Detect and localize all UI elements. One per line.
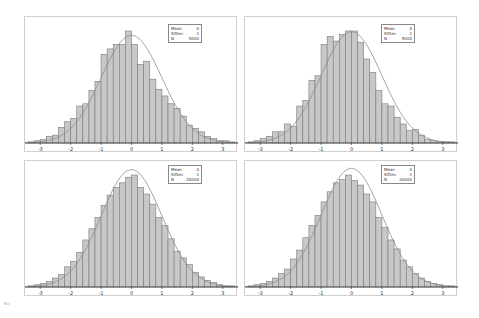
histogram-bar [370, 202, 376, 287]
histogram-bar [168, 239, 174, 287]
legend-row: N20000 [171, 177, 199, 182]
histogram-bar [339, 179, 345, 287]
x-tick-label: 3 [221, 290, 224, 296]
histogram-bar [352, 31, 358, 143]
legend-value: 20000 [399, 177, 412, 182]
histogram-bar [358, 42, 364, 143]
histogram-bar [77, 106, 83, 143]
histogram-bar [327, 192, 333, 287]
histogram-bar [144, 194, 150, 287]
x-tick-label: 3 [441, 146, 444, 152]
histogram-bar [412, 130, 418, 143]
x-tick-label: 0 [350, 146, 353, 152]
histogram-bar [144, 61, 150, 143]
histogram-bar [107, 195, 113, 287]
x-tick-label: -2 [68, 146, 73, 152]
histogram-bar [119, 44, 125, 143]
x-tick-label: 0 [350, 290, 353, 296]
histogram-bar [382, 104, 388, 143]
x-tick-label: 1 [160, 146, 163, 152]
legend-key: N [384, 177, 387, 182]
x-tick-label: 2 [411, 290, 414, 296]
histogram-bar [150, 79, 156, 143]
histogram-plot: -3-2-10123 [25, 161, 238, 307]
x-tick-label: -2 [288, 290, 293, 296]
histogram-bar [345, 31, 351, 143]
histogram-plot: -3-2-10123 [245, 161, 458, 307]
histogram-bar [358, 185, 364, 287]
histogram-bar [95, 81, 101, 143]
histogram-bar [406, 131, 412, 143]
histogram-bar [309, 225, 315, 287]
histogram-bar [364, 59, 370, 143]
histogram-bar [125, 31, 131, 143]
histogram-bar [71, 118, 77, 143]
histogram-bar [192, 272, 198, 287]
histogram-bar [156, 89, 162, 143]
histogram-bar [370, 72, 376, 143]
histogram-bar [382, 228, 388, 287]
histogram-bar [388, 240, 394, 287]
legend-key: N [384, 36, 387, 41]
histogram-bar [138, 65, 144, 143]
histogram-plot: -3-2-10123 [25, 17, 238, 163]
histogram-panel-top-left: -3-2-10123Mean0StDev1N5000 [24, 16, 237, 152]
x-tick-label: -1 [99, 146, 104, 152]
histogram-bar [333, 41, 339, 143]
histogram-bar [315, 76, 321, 143]
histogram-bar [83, 240, 89, 287]
histogram-bar [400, 260, 406, 287]
x-tick-label: -1 [319, 146, 324, 152]
histogram-bar [425, 140, 431, 143]
x-tick-label: -1 [99, 290, 104, 296]
histogram-bar [291, 259, 297, 287]
histogram-bar [65, 267, 71, 287]
histogram-bar [89, 90, 95, 143]
histogram-bar [174, 251, 180, 287]
histogram-plot: -3-2-10123 [245, 17, 458, 163]
histogram-bar [58, 275, 64, 287]
x-tick-label: -3 [258, 290, 263, 296]
histogram-bar [321, 44, 327, 143]
x-tick-label: -3 [38, 290, 43, 296]
x-tick-label: 3 [441, 290, 444, 296]
histogram-bar [376, 218, 382, 287]
x-tick-label: -2 [68, 290, 73, 296]
histogram-panel-top-right: -3-2-10123Mean0StDev1N5000 [244, 16, 457, 152]
histogram-bar [291, 126, 297, 143]
histogram-bar [376, 90, 382, 143]
histogram-bar [198, 132, 204, 143]
histogram-bar [132, 175, 138, 287]
histogram-bar [345, 175, 351, 287]
histogram-panel-bottom-left: -3-2-10123Mean0StDev1N20000 [24, 160, 237, 296]
legend-key: N [171, 36, 174, 41]
legend-value: 5000 [189, 36, 199, 41]
histogram-bar [119, 183, 125, 287]
x-tick-label: -3 [258, 146, 263, 152]
stats-legend: Mean0StDev1N20000 [381, 165, 415, 184]
x-tick-label: 1 [380, 290, 383, 296]
histogram-bar [101, 55, 107, 143]
histogram-bar [125, 177, 131, 287]
x-tick-label: -2 [288, 146, 293, 152]
legend-key: N [171, 177, 174, 182]
histogram-bar [113, 187, 119, 287]
histogram-bar [101, 205, 107, 287]
histogram-bar [285, 124, 291, 143]
stats-legend: Mean0StDev1N20000 [168, 165, 202, 184]
corner-label: N= [4, 301, 10, 306]
legend-row: N20000 [384, 177, 412, 182]
histogram-bar [168, 104, 174, 143]
histogram-bar [83, 104, 89, 143]
histogram-bar [394, 117, 400, 143]
legend-row: N5000 [171, 36, 199, 41]
histogram-bar [156, 218, 162, 287]
x-tick-label: 3 [221, 146, 224, 152]
stats-legend: Mean0StDev1N5000 [168, 24, 202, 43]
x-tick-label: 1 [160, 290, 163, 296]
histogram-bar [315, 215, 321, 287]
histogram-bar [113, 44, 119, 143]
histogram-bar [394, 249, 400, 287]
histogram-bar [297, 106, 303, 143]
legend-value: 5000 [402, 36, 412, 41]
